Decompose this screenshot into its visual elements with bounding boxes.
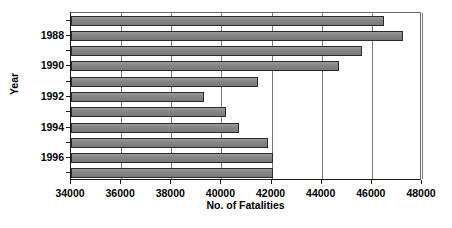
y-tick-label-1988: 1988 bbox=[0, 29, 64, 41]
y-tick-1989 bbox=[66, 50, 70, 51]
y-tick-1987 bbox=[66, 20, 70, 21]
bar-1991 bbox=[71, 77, 258, 87]
x-tick-label-42000: 42000 bbox=[256, 187, 285, 199]
bar-chart: 3400036000380004000042000440004600048000… bbox=[0, 0, 452, 228]
y-tick-1996 bbox=[66, 157, 70, 158]
y-axis-title: Year bbox=[8, 54, 20, 114]
plot-area bbox=[70, 12, 421, 180]
y-tick-1988 bbox=[66, 35, 70, 36]
x-tick-34000 bbox=[70, 180, 71, 184]
y-tick-1997 bbox=[66, 172, 70, 173]
x-tick-42000 bbox=[271, 180, 272, 184]
x-tick-label-38000: 38000 bbox=[156, 187, 185, 199]
x-axis-title: No. of Fatalities bbox=[70, 199, 421, 211]
x-tick-36000 bbox=[120, 180, 121, 184]
y-tick-1993 bbox=[66, 111, 70, 112]
bar-1996 bbox=[71, 153, 273, 163]
bar-row bbox=[71, 31, 420, 41]
bar-row bbox=[71, 77, 420, 87]
gridline-48000 bbox=[422, 13, 423, 179]
y-tick-1995 bbox=[66, 142, 70, 143]
bar-1992 bbox=[71, 92, 204, 102]
bar-row bbox=[71, 61, 420, 71]
y-tick-label-1996: 1996 bbox=[0, 151, 64, 163]
bar-row bbox=[71, 107, 420, 117]
bar-row bbox=[71, 46, 420, 56]
y-axis-tick-labels: 19881990199219941996 bbox=[0, 0, 64, 228]
bar-row bbox=[71, 123, 420, 133]
bar-1987 bbox=[71, 16, 384, 26]
x-tick-label-40000: 40000 bbox=[206, 187, 235, 199]
bar-1989 bbox=[71, 46, 362, 56]
y-tick-1991 bbox=[66, 81, 70, 82]
x-tick-40000 bbox=[220, 180, 221, 184]
bar-1997 bbox=[71, 168, 273, 178]
bar-row bbox=[71, 92, 420, 102]
bar-row bbox=[71, 153, 420, 163]
bar-series bbox=[71, 13, 420, 179]
y-tick-1994 bbox=[66, 127, 70, 128]
x-tick-44000 bbox=[321, 180, 322, 184]
x-tick-label-44000: 44000 bbox=[306, 187, 335, 199]
x-tick-46000 bbox=[371, 180, 372, 184]
bar-row bbox=[71, 138, 420, 148]
x-tick-label-48000: 48000 bbox=[406, 187, 435, 199]
x-tick-label-46000: 46000 bbox=[356, 187, 385, 199]
bar-row bbox=[71, 16, 420, 26]
x-tick-38000 bbox=[170, 180, 171, 184]
x-tick-label-36000: 36000 bbox=[106, 187, 135, 199]
y-tick-1992 bbox=[66, 96, 70, 97]
bar-1990 bbox=[71, 61, 339, 71]
x-tick-48000 bbox=[421, 180, 422, 184]
y-tick-label-1994: 1994 bbox=[0, 121, 64, 133]
bar-row bbox=[71, 168, 420, 178]
bar-1995 bbox=[71, 138, 268, 148]
bar-1993 bbox=[71, 107, 226, 117]
bar-1988 bbox=[71, 31, 403, 41]
y-tick-1990 bbox=[66, 65, 70, 66]
bar-1994 bbox=[71, 123, 239, 133]
